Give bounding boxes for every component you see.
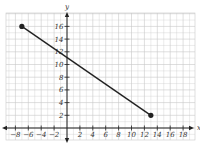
x-axis-label: x [197, 124, 200, 132]
grid-lines [6, 13, 195, 140]
x-tick-label: −2 [49, 131, 60, 139]
y-tick-label: 10 [55, 61, 64, 69]
x-tick-label: −4 [36, 131, 46, 139]
x-tick-label: 4 [90, 131, 95, 139]
y-tick-label: 4 [58, 99, 63, 107]
x-tick-label: 18 [179, 131, 188, 139]
y-tick-label: 8 [59, 74, 64, 82]
x-tick-label: 10 [127, 131, 136, 139]
x-tick-label: 14 [153, 131, 162, 139]
endpoint-marker [148, 113, 153, 118]
x-tick-label: −8 [10, 131, 21, 139]
y-tick-label: 16 [55, 23, 64, 31]
y-tick-labels: 246810121416 [55, 23, 64, 120]
x-tick-label: 6 [103, 131, 108, 139]
line-chart: −8−6−4−224681012141618 246810121416 x y [0, 0, 200, 145]
y-tick-label: 14 [55, 36, 64, 44]
x-tick-label: 2 [77, 131, 83, 139]
x-tick-label: −6 [23, 131, 34, 139]
endpoint-marker [19, 24, 24, 29]
y-axis-label: y [64, 3, 70, 11]
axes [2, 12, 194, 143]
y-tick-label: 6 [59, 86, 64, 94]
x-tick-label: 8 [116, 131, 121, 139]
y-tick-label: 2 [58, 112, 64, 120]
x-tick-label: 16 [166, 131, 175, 139]
x-tick-label: 12 [140, 131, 149, 139]
